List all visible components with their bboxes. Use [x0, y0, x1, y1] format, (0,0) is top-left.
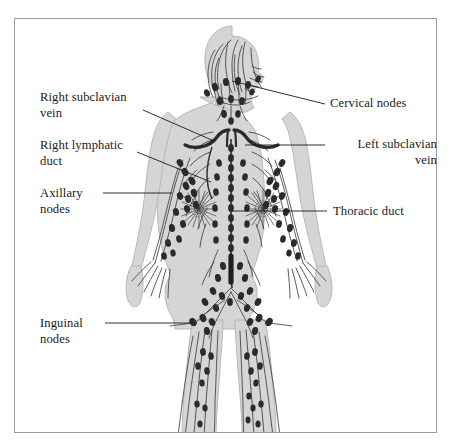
thoracic-duct-nodes — [228, 144, 234, 252]
lymphatic-system-figure: Right subclavian vein Right lymphatic du… — [0, 0, 457, 445]
label-cervical-nodes: Cervical nodes — [330, 96, 440, 112]
label-left-subclavian-vein: Left subclavian vein — [320, 137, 437, 168]
label-inguinal-nodes: Inguinal nodes — [40, 316, 110, 347]
label-right-lymphatic-duct: Right lymphatic duct — [40, 138, 170, 169]
label-thoracic-duct: Thoracic duct — [333, 204, 443, 220]
label-axillary-nodes: Axillary nodes — [40, 186, 110, 217]
anatomical-diagram — [0, 0, 457, 445]
label-right-subclavian-vein: Right subclavian vein — [40, 90, 170, 121]
